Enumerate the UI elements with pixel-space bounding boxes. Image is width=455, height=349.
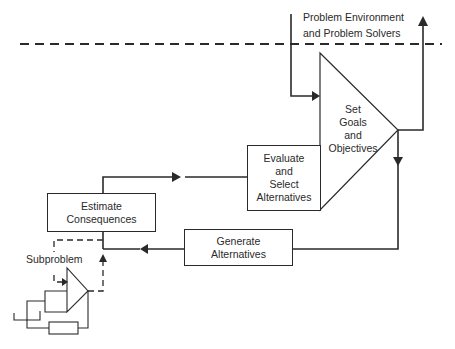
environment-label: Problem Environment and Problem Solvers: [303, 11, 404, 40]
subproblem-label: Subproblem: [26, 253, 83, 266]
set-goals-line: Objectives: [318, 142, 388, 155]
environment-label-line1: Problem Environment: [303, 11, 404, 24]
estimate-box: Estimate Consequences: [47, 193, 156, 232]
set-goals-line: Set: [318, 103, 388, 116]
set-goals-label: Set Goals and Objectives: [318, 103, 388, 155]
evaluate-line: Alternatives: [257, 191, 312, 204]
diagram-lines: [0, 0, 455, 349]
generate-line: Alternatives: [211, 248, 266, 261]
environment-label-line2: and Problem Solvers: [303, 27, 404, 40]
estimate-line: Consequences: [66, 213, 136, 226]
set-goals-line: Goals: [318, 116, 388, 129]
estimate-line: Estimate: [66, 200, 136, 213]
generate-line: Generate: [211, 235, 266, 248]
evaluate-line: Evaluate: [257, 152, 312, 165]
set-goals-line: and: [318, 129, 388, 142]
evaluate-box: Evaluate and Select Alternatives: [247, 145, 321, 211]
evaluate-line: and: [257, 165, 312, 178]
evaluate-line: Select: [257, 178, 312, 191]
generate-box: Generate Alternatives: [184, 229, 293, 266]
